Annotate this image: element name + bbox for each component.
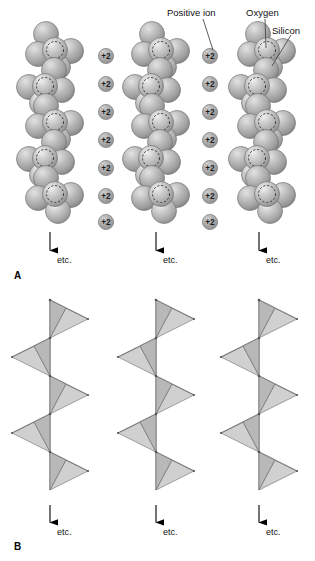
silica-tetrahedron — [11, 337, 51, 376]
shared-oxygen-corner — [155, 375, 158, 378]
positive-ion-charge: +2 — [205, 192, 215, 201]
silica-tetrahedron — [258, 375, 298, 414]
positive-ion: +2 — [98, 132, 113, 147]
shared-oxygen-corner — [258, 299, 261, 302]
apex-oxygen-corner — [296, 394, 298, 396]
positive-ion-charge: +2 — [101, 52, 111, 61]
positive-ion: +2 — [98, 48, 113, 63]
positive-ion-charge: +2 — [205, 52, 215, 61]
positive-ion: +2 — [202, 160, 217, 175]
apex-oxygen-corner — [87, 394, 89, 396]
apex-oxygen-corner — [117, 356, 119, 358]
apex-oxygen-corner — [193, 394, 195, 396]
chain-a-left — [17, 22, 84, 224]
silica-tetrahedron — [220, 413, 260, 452]
positive-ion-charge: +2 — [205, 108, 215, 117]
positive-ion: +2 — [202, 76, 217, 91]
shared-oxygen-corner — [258, 375, 261, 378]
apex-oxygen-corner — [193, 318, 195, 320]
positive-ion: +2 — [98, 214, 113, 229]
apex-oxygen-corner — [296, 470, 298, 472]
positive-ion: +2 — [202, 104, 217, 119]
positive-ion: +2 — [202, 132, 217, 147]
positive-ion-charge: +2 — [101, 164, 111, 173]
silica-tetrahedron — [117, 413, 157, 452]
label-positive-ion: Positive ion — [167, 8, 216, 18]
positive-ion-charge: +2 — [101, 108, 111, 117]
figure-canvas: +2+2+2+2+2+2+2+2+2+2+2+2+2+2 — [0, 0, 315, 561]
apex-oxygen-corner — [11, 356, 13, 358]
silica-tetrahedron — [11, 413, 51, 452]
positive-ion: +2 — [98, 104, 113, 119]
silicate-structure-figure: +2+2+2+2+2+2+2+2+2+2+2+2+2+2 Positive io… — [0, 0, 315, 561]
positive-ion-charge: +2 — [101, 218, 111, 227]
apex-oxygen-corner — [220, 356, 222, 358]
apex-oxygen-corner — [117, 432, 119, 434]
etc-label-b1: etc. — [57, 528, 72, 537]
positive-ion: +2 — [202, 188, 217, 203]
silica-tetrahedron — [117, 337, 157, 376]
silica-tetrahedron — [49, 375, 89, 414]
chain-a-middle — [123, 22, 190, 224]
positive-ion-leader — [203, 19, 213, 50]
silica-tetrahedron — [155, 299, 195, 338]
label-silicon: Silicon — [272, 26, 300, 36]
shared-oxygen-corner — [49, 451, 52, 454]
apex-oxygen-corner — [220, 432, 222, 434]
shared-oxygen-corner — [155, 451, 158, 454]
apex-oxygen-corner — [87, 470, 89, 472]
shared-oxygen-corner — [258, 413, 261, 416]
silica-tetrahedron — [49, 299, 89, 338]
shared-oxygen-corner — [155, 337, 158, 340]
silica-tetrahedron — [258, 299, 298, 338]
shared-oxygen-corner — [258, 337, 261, 340]
shared-oxygen-corner — [258, 451, 261, 454]
shared-oxygen-corner — [49, 375, 52, 378]
shared-oxygen-corner — [155, 413, 158, 416]
silica-tetrahedron — [155, 375, 195, 414]
etc-label-b2: etc. — [163, 528, 178, 537]
silica-tetrahedron — [155, 451, 195, 490]
panel-a-ball-models — [17, 22, 296, 224]
panel-a-etc-arrows — [50, 232, 259, 250]
silica-tetrahedron — [258, 451, 298, 490]
apex-oxygen-corner — [11, 432, 13, 434]
etc-label-a3: etc. — [266, 256, 281, 265]
chain-b-left — [11, 299, 89, 490]
positive-ion-charge: +2 — [205, 136, 215, 145]
shared-oxygen-corner — [49, 337, 52, 340]
positive-ion-charge: +2 — [205, 164, 215, 173]
panel-b-etc-arrows — [50, 505, 259, 522]
etc-label-a1: etc. — [57, 256, 72, 265]
etc-label-b3: etc. — [266, 528, 281, 537]
chain-b-right — [220, 299, 298, 490]
shared-oxygen-corner — [49, 299, 52, 302]
shared-oxygen-corner — [49, 413, 52, 416]
apex-oxygen-corner — [296, 318, 298, 320]
apex-oxygen-corner — [87, 318, 89, 320]
silica-tetrahedron — [220, 337, 260, 376]
positive-ion-charge: +2 — [205, 218, 215, 227]
positive-ion: +2 — [202, 214, 217, 229]
chain-b-middle — [117, 299, 195, 490]
shared-oxygen-corner — [155, 299, 158, 302]
positive-ion: +2 — [98, 188, 113, 203]
positive-ion: +2 — [202, 48, 217, 63]
positive-ion-charge: +2 — [101, 136, 111, 145]
label-oxygen: Oxygen — [246, 8, 279, 18]
positive-ion: +2 — [98, 76, 113, 91]
positive-ion-charge: +2 — [205, 80, 215, 89]
etc-label-a2: etc. — [163, 256, 178, 265]
apex-oxygen-corner — [193, 470, 195, 472]
silica-tetrahedron — [49, 451, 89, 490]
panel-letter-a: A — [14, 271, 21, 281]
positive-ion-charge: +2 — [101, 80, 111, 89]
panel-letter-b: B — [14, 542, 21, 552]
positive-ion: +2 — [98, 160, 113, 175]
chain-a-right — [229, 22, 296, 224]
positive-ion-charge: +2 — [101, 192, 111, 201]
panel-b-tetrahedra-models — [11, 299, 298, 490]
